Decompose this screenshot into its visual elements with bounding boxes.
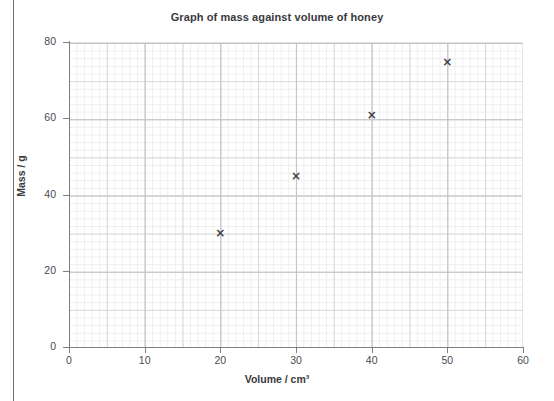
data-point-marker: × bbox=[441, 56, 454, 69]
y-tick-mark bbox=[63, 42, 69, 43]
y-tick-label: 20 bbox=[14, 264, 56, 276]
data-point-marker: × bbox=[365, 109, 378, 122]
x-tick-label: 60 bbox=[499, 354, 547, 366]
x-tick-mark bbox=[372, 347, 373, 353]
x-tick-mark bbox=[145, 347, 146, 353]
x-tick-label: 30 bbox=[272, 354, 320, 366]
chart-title: Graph of mass against volume of honey bbox=[0, 11, 554, 23]
x-tick-mark bbox=[523, 347, 524, 353]
x-tick-mark bbox=[69, 347, 70, 353]
plot-area: ×××× bbox=[69, 42, 523, 347]
y-tick-mark bbox=[63, 118, 69, 119]
data-point-marker: × bbox=[290, 170, 303, 183]
y-tick-label: 0 bbox=[14, 340, 56, 352]
y-tick-label: 60 bbox=[14, 111, 56, 123]
x-tick-mark bbox=[220, 347, 221, 353]
x-tick-label: 10 bbox=[121, 354, 169, 366]
x-axis-label: Volume / cm³ bbox=[0, 373, 554, 385]
y-tick-label: 80 bbox=[14, 35, 56, 47]
x-tick-mark bbox=[296, 347, 297, 353]
y-tick-mark bbox=[63, 195, 69, 196]
x-tick-label: 0 bbox=[45, 354, 93, 366]
chart-page: Graph of mass against volume of honey ××… bbox=[0, 0, 554, 401]
y-tick-mark bbox=[63, 271, 69, 272]
grid-decade bbox=[69, 43, 522, 347]
data-point-marker: × bbox=[214, 227, 227, 240]
x-tick-mark bbox=[447, 347, 448, 353]
y-axis-spine bbox=[69, 41, 70, 348]
x-tick-label: 40 bbox=[348, 354, 396, 366]
y-axis-label: Mass / g bbox=[15, 141, 27, 211]
x-tick-label: 20 bbox=[196, 354, 244, 366]
x-tick-label: 50 bbox=[423, 354, 471, 366]
